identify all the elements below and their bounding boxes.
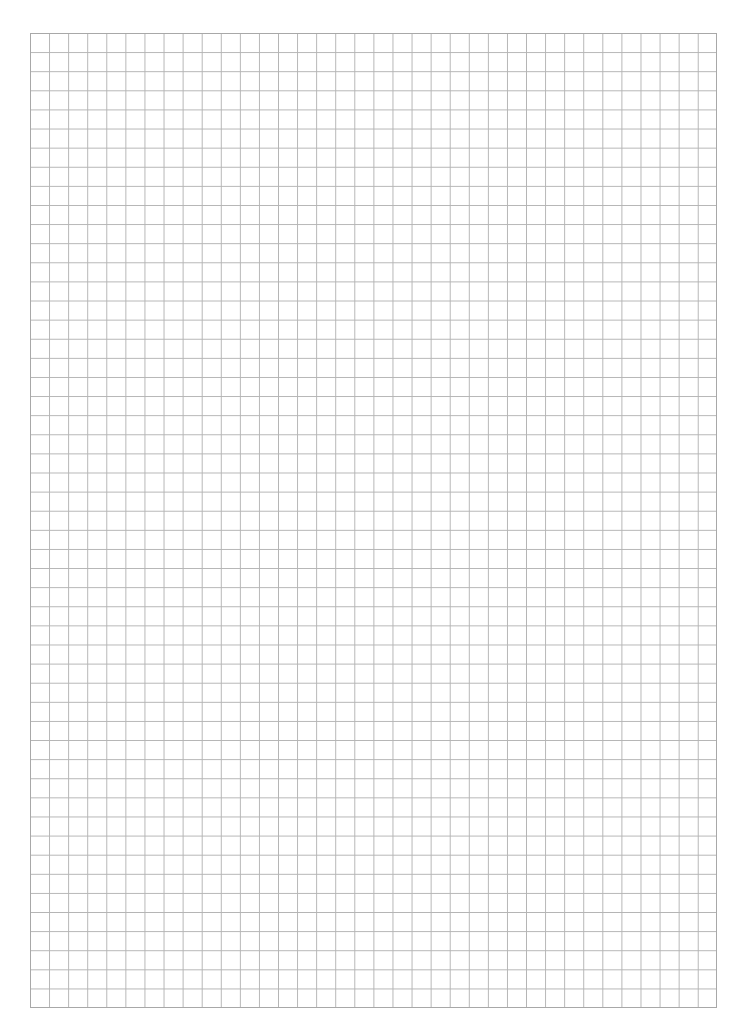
grid-paper-sheet <box>30 33 717 1008</box>
